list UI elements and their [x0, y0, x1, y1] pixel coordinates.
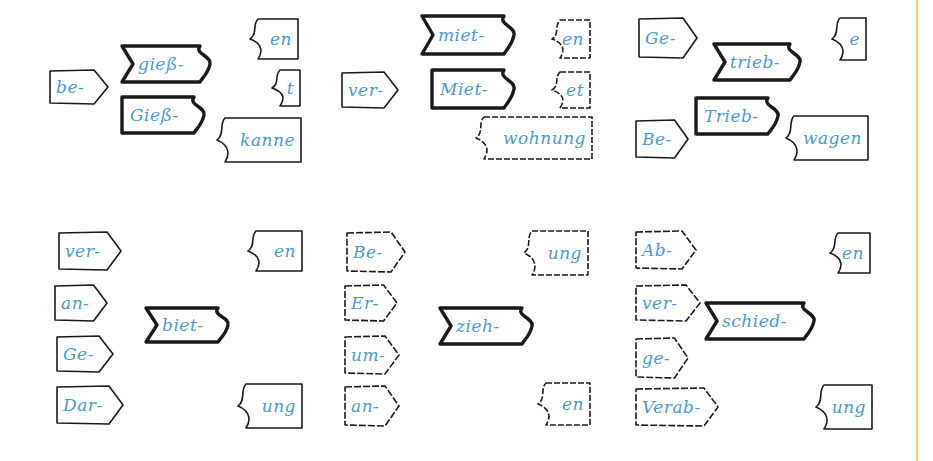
- stem-label: Gieß-: [130, 95, 179, 135]
- stem-tile-trieb: Trieb-: [694, 96, 780, 136]
- stem-tile-gieß: Gieß-: [120, 95, 206, 135]
- prefix-label: an-: [351, 384, 379, 428]
- suffix-label: t: [287, 68, 294, 108]
- suffix-label: en: [274, 229, 296, 273]
- prefix-tile-verab: Verab-: [634, 386, 718, 428]
- prefix-tile-ge: Ge-: [637, 16, 697, 60]
- stem-label: Trieb-: [704, 96, 759, 136]
- stem-label: zieh-: [456, 306, 500, 346]
- prefix-label: Ge-: [645, 16, 676, 60]
- stem-tile-zieh: zieh-: [438, 306, 534, 346]
- prefix-label: ver-: [348, 70, 384, 110]
- prefix-tile-be: Be-: [634, 118, 688, 160]
- suffix-tile-ung: ung: [520, 229, 590, 277]
- stem-tile-biet: biet-: [144, 306, 230, 344]
- prefix-label: Be-: [353, 230, 383, 274]
- suffix-label: en: [270, 17, 292, 61]
- suffix-shape-icon: [828, 16, 868, 62]
- stem-tile-schied: schied-: [704, 301, 816, 341]
- stem-tile-trieb: trieb-: [712, 42, 802, 82]
- suffix-label: en: [562, 381, 584, 427]
- suffix-tile-en: en: [548, 18, 592, 60]
- prefix-tile-be: be-: [48, 68, 108, 106]
- suffix-tile-wohnung: wohnung: [472, 115, 594, 161]
- morphology-diagram: be-gieß-Gieß-entkannever-miet-Miet-enetw…: [0, 0, 933, 461]
- stem-label: biet-: [162, 306, 203, 344]
- prefix-label: um-: [351, 334, 385, 376]
- prefix-label: Be-: [642, 118, 672, 160]
- margin-divider-line: [916, 0, 918, 461]
- stem-tile-miet: miet-: [420, 14, 516, 56]
- prefix-label: Ge-: [63, 334, 94, 374]
- suffix-tile-en: en: [246, 17, 300, 61]
- prefix-tile-ver: ver-: [57, 230, 121, 272]
- prefix-label: Er-: [351, 283, 379, 323]
- suffix-tile-wagen: wagen: [782, 114, 870, 162]
- prefix-tile-be: Be-: [345, 230, 405, 274]
- prefix-tile-dar: Dar-: [55, 384, 123, 426]
- suffix-tile-e: e: [828, 16, 868, 62]
- prefix-label: Ab-: [642, 229, 672, 271]
- prefix-tile-ab: Ab-: [634, 229, 696, 271]
- prefix-tile-an: an-: [53, 283, 107, 323]
- stem-label: schied-: [722, 301, 787, 341]
- prefix-label: be-: [56, 68, 84, 106]
- suffix-label: wohnung: [503, 115, 586, 161]
- prefix-tile-er: Er-: [343, 283, 397, 323]
- suffix-shape-icon: [268, 68, 302, 108]
- suffix-tile-t: t: [268, 68, 302, 108]
- suffix-label: ung: [548, 229, 582, 277]
- prefix-tile-ge: ge-: [634, 336, 688, 380]
- stem-tile-miet: Miet-: [430, 68, 516, 110]
- stem-label: miet-: [438, 14, 485, 56]
- prefix-tile-ver: ver-: [340, 70, 398, 110]
- prefix-label: an-: [61, 283, 89, 323]
- suffix-label: kanne: [240, 116, 295, 164]
- suffix-label: en: [562, 18, 584, 60]
- prefix-label: ver-: [642, 283, 678, 323]
- prefix-tile-um: um-: [343, 334, 399, 376]
- stem-label: Miet-: [440, 68, 488, 110]
- stem-tile-gieß: gieß-: [120, 44, 212, 84]
- prefix-tile-ge: Ge-: [55, 334, 113, 374]
- stem-label: gieß-: [138, 44, 184, 84]
- prefix-label: Verab-: [642, 386, 701, 428]
- prefix-label: ge-: [642, 336, 670, 380]
- suffix-tile-en: en: [534, 381, 592, 427]
- suffix-label: wagen: [803, 114, 862, 162]
- suffix-tile-en: en: [826, 231, 872, 275]
- suffix-tile-en: en: [244, 229, 304, 273]
- suffix-label: ung: [262, 382, 296, 430]
- suffix-label: et: [566, 70, 584, 110]
- prefix-tile-ver: ver-: [634, 283, 700, 323]
- suffix-label: e: [849, 16, 860, 62]
- prefix-tile-an: an-: [343, 384, 399, 428]
- suffix-label: ung: [832, 383, 866, 431]
- suffix-tile-ung: ung: [234, 382, 304, 430]
- stem-label: trieb-: [730, 42, 780, 82]
- suffix-tile-et: et: [548, 70, 592, 110]
- prefix-label: Dar-: [63, 384, 103, 426]
- prefix-label: ver-: [65, 230, 101, 272]
- suffix-tile-ung: ung: [812, 383, 874, 431]
- suffix-label: en: [842, 231, 864, 275]
- suffix-tile-kanne: kanne: [213, 116, 303, 164]
